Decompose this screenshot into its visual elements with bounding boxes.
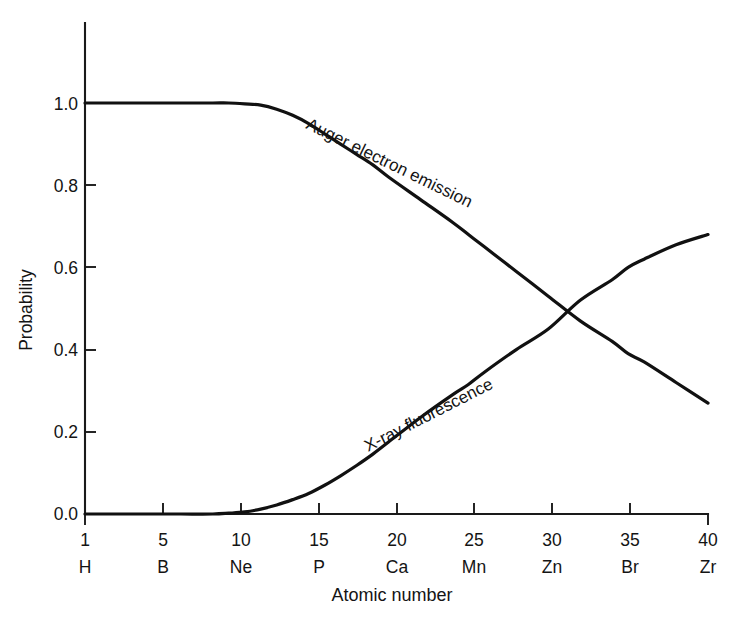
y-tick-label-0: 0.0 xyxy=(54,504,79,524)
x-element-label-3: P xyxy=(313,557,325,577)
x-tick-label-1: 5 xyxy=(158,530,168,550)
y-tick-label-4: 0.8 xyxy=(54,176,78,196)
x-tick-label-4: 20 xyxy=(387,530,407,550)
auger-electron-emission-curve xyxy=(85,103,708,403)
y-tick-label-3: 0.6 xyxy=(54,258,78,278)
x-tick-label-8: 40 xyxy=(698,530,718,550)
x-tick-label-0: 1 xyxy=(80,530,90,550)
x-tick-label-2: 10 xyxy=(231,530,251,550)
auger-electron-emission-label: Auger electron emission xyxy=(303,115,475,212)
y-tick-label-1: 0.2 xyxy=(54,422,78,442)
x-element-label-6: Zn xyxy=(542,557,562,577)
figure-panel: 0.0 0.2 0.4 0.6 0.8 1.0 Probability 1 5 … xyxy=(0,0,741,629)
x-ray-fluorescence-curve xyxy=(85,235,708,515)
y-axis-ticks xyxy=(85,103,96,514)
x-element-label-2: Ne xyxy=(230,557,252,577)
x-element-label-8: Zr xyxy=(700,557,717,577)
x-ray-fluorescence-label: X-ray fluorescence xyxy=(361,374,496,455)
x-element-label-7: Br xyxy=(621,557,639,577)
x-tick-label-5: 25 xyxy=(464,530,483,550)
x-tick-label-6: 30 xyxy=(542,530,562,550)
x-element-label-0: H xyxy=(79,557,92,577)
y-tick-label-2: 0.4 xyxy=(54,340,79,360)
y-axis-title: Probability xyxy=(16,269,36,351)
x-axis-element-labels: H B Ne P Ca Mn Zn Br Zr xyxy=(79,557,717,577)
x-element-label-5: Mn xyxy=(462,557,486,577)
y-tick-label-5: 1.0 xyxy=(54,94,79,114)
x-element-label-4: Ca xyxy=(386,557,409,577)
probability-vs-atomic-number-chart: 0.0 0.2 0.4 0.6 0.8 1.0 Probability 1 5 … xyxy=(0,0,741,629)
y-axis-tick-labels: 0.0 0.2 0.4 0.6 0.8 1.0 xyxy=(54,94,79,524)
x-axis-tick-labels: 1 5 10 15 20 25 30 35 40 xyxy=(80,530,718,550)
x-element-label-1: B xyxy=(157,557,169,577)
x-tick-label-3: 15 xyxy=(309,530,328,550)
x-tick-label-7: 35 xyxy=(620,530,639,550)
x-axis-title: Atomic number xyxy=(331,585,452,605)
